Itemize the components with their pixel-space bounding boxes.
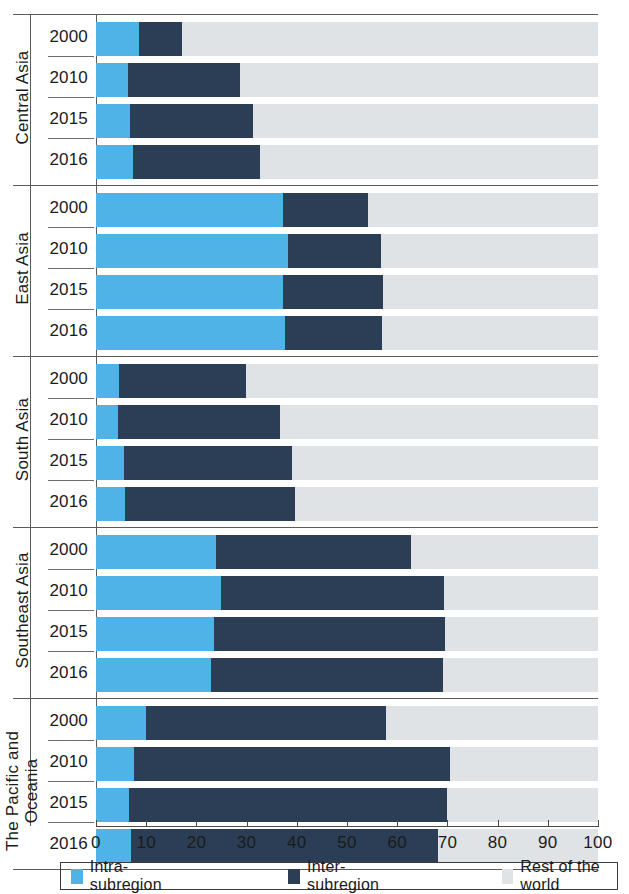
bar-segment-intra-subregion: [96, 145, 133, 179]
bar-segment-rest-of-the-world: [381, 234, 598, 268]
legend-swatch-1: [71, 869, 83, 884]
bar-segment-rest-of-the-world: [292, 446, 598, 480]
region-group: 2000201020152016Southeast Asia: [96, 527, 598, 698]
bar-segment-rest-of-the-world: [368, 193, 598, 227]
bar-segment-intra-subregion: [96, 22, 139, 56]
legend-swatch-3: [502, 869, 514, 884]
x-axis-tick: [548, 820, 549, 827]
bar-segment-inter-subregion: [139, 22, 182, 56]
year-tick: [48, 781, 94, 782]
legend-item: Rest of the world: [502, 858, 617, 894]
bar-segment-inter-subregion: [285, 316, 382, 350]
bar-segment-inter-subregion: [146, 706, 386, 740]
x-axis-tick: [247, 820, 248, 827]
bar-segment-inter-subregion: [118, 405, 280, 439]
year-tick: [48, 822, 94, 823]
stacked-bar: [96, 788, 598, 822]
chart-legend: Intra-subregionInter-subregionRest of th…: [60, 862, 618, 890]
x-axis-tick-label: 60: [377, 833, 417, 853]
x-axis-tick-label: 30: [227, 833, 267, 853]
year-tick: [48, 439, 94, 440]
bar-segment-intra-subregion: [96, 193, 283, 227]
year-tick: [48, 740, 94, 741]
legend-label: Rest of the world: [520, 858, 617, 894]
x-axis-tick: [196, 820, 197, 827]
x-axis-tick-label: 50: [327, 833, 367, 853]
x-axis-tick-label: 90: [528, 833, 568, 853]
stacked-bar: [96, 617, 598, 651]
bar-segment-rest-of-the-world: [280, 405, 598, 439]
bar-segment-rest-of-the-world: [383, 275, 598, 309]
region-label: East Asia: [13, 193, 32, 343]
bar-segment-inter-subregion: [214, 617, 445, 651]
region-group: 2000201020152016East Asia: [96, 185, 598, 356]
region-label: South Asia: [13, 364, 32, 514]
bar-segment-intra-subregion: [96, 63, 128, 97]
year-tick: [48, 227, 94, 228]
x-axis-tick: [498, 820, 499, 827]
bar-segment-intra-subregion: [96, 275, 283, 309]
bar-segment-rest-of-the-world: [450, 747, 598, 781]
bar-segment-rest-of-the-world: [295, 487, 598, 521]
x-axis-tick: [447, 820, 448, 827]
bar-segment-intra-subregion: [96, 788, 129, 822]
stacked-bar: [96, 747, 598, 781]
bar-segment-inter-subregion: [134, 747, 450, 781]
bar-segment-inter-subregion: [129, 788, 447, 822]
year-tick: [48, 480, 94, 481]
bar-segment-rest-of-the-world: [445, 617, 598, 651]
bar-segment-rest-of-the-world: [447, 788, 598, 822]
bar-segment-inter-subregion: [221, 576, 444, 610]
x-axis-tick: [397, 820, 398, 827]
bar-segment-inter-subregion: [133, 145, 260, 179]
bar-segment-intra-subregion: [96, 706, 146, 740]
stacked-bar: [96, 316, 598, 350]
year-tick: [48, 97, 94, 98]
stacked-bar: [96, 658, 598, 692]
x-axis-tick: [96, 820, 97, 827]
year-tick: [48, 268, 94, 269]
bar-segment-rest-of-the-world: [444, 576, 598, 610]
bar-segment-intra-subregion: [96, 617, 214, 651]
region-group: 2000201020152016South Asia: [96, 356, 598, 527]
bar-segment-inter-subregion: [216, 535, 411, 569]
bar-segment-inter-subregion: [125, 487, 295, 521]
bar-segment-rest-of-the-world: [411, 535, 598, 569]
stacked-bar: [96, 234, 598, 268]
stacked-bar: [96, 487, 598, 521]
bar-segment-inter-subregion: [124, 446, 292, 480]
x-axis-tick: [297, 820, 298, 827]
region-separator: [13, 356, 598, 357]
bar-segment-rest-of-the-world: [253, 104, 598, 138]
stacked-bar: [96, 275, 598, 309]
bar-segment-rest-of-the-world: [260, 145, 598, 179]
bar-segment-rest-of-the-world: [246, 364, 598, 398]
bar-segment-inter-subregion: [211, 658, 443, 692]
stacked-bar: [96, 405, 598, 439]
year-tick: [48, 569, 94, 570]
bar-segment-intra-subregion: [96, 316, 285, 350]
bar-segment-intra-subregion: [96, 535, 216, 569]
region-separator: [13, 698, 598, 699]
bar-segment-intra-subregion: [96, 104, 130, 138]
region-label: The Pacific and Oceania: [3, 716, 41, 866]
bar-segment-intra-subregion: [96, 576, 221, 610]
bar-segment-intra-subregion: [96, 487, 125, 521]
region-label: Southeast Asia: [13, 535, 32, 685]
region-separator: [13, 527, 598, 528]
bar-segment-rest-of-the-world: [382, 316, 598, 350]
legend-item: Inter-subregion: [288, 858, 393, 894]
year-tick: [48, 138, 94, 139]
region-separator: [13, 14, 598, 15]
legend-label: Inter-subregion: [307, 858, 394, 894]
stacked-bar: [96, 535, 598, 569]
bar-segment-inter-subregion: [283, 275, 382, 309]
year-tick: [48, 651, 94, 652]
stacked-bar: [96, 446, 598, 480]
bar-segment-inter-subregion: [288, 234, 381, 268]
year-tick: [48, 610, 94, 611]
bar-segment-rest-of-the-world: [182, 22, 598, 56]
x-axis-tick-label: 0: [76, 833, 116, 853]
x-axis-tick-label: 10: [126, 833, 166, 853]
